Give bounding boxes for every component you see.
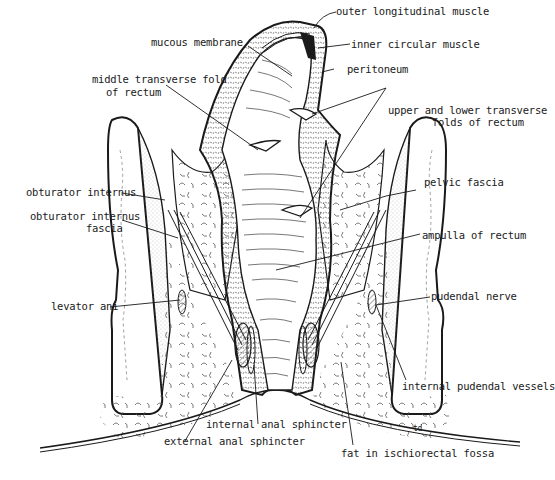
label-pudendal-nerve: pudendal nerve — [431, 290, 517, 303]
artist-initials: td — [413, 422, 422, 435]
label-internal-anal-sphincter: internal anal sphincter — [206, 418, 347, 431]
label-external-anal-sphincter: external anal sphincter — [164, 435, 305, 448]
label-middle-transverse-fold-line1: middle transverse fold — [92, 73, 227, 86]
right-ischium — [382, 117, 446, 414]
label-inner-circular-muscle: inner circular muscle — [351, 38, 480, 51]
label-outer-longitudinal-muscle: outer longitudinal muscle — [336, 5, 489, 18]
label-upper-lower-folds-line2: folds of rectum — [432, 116, 524, 129]
left-ischium — [108, 117, 170, 414]
label-pelvic-fascia: pelvic fascia — [424, 176, 504, 189]
label-obturator-internus-fascia-line2: fascia — [86, 222, 123, 235]
label-middle-transverse-fold-line2: of rectum — [106, 86, 161, 99]
label-ampulla-of-rectum: ampulla of rectum — [422, 229, 526, 242]
label-obturator-internus: obturator internus — [26, 186, 136, 199]
label-fat-in-ischiorectal-fossa: fat in ischiorectal fossa — [341, 447, 494, 460]
label-levator-ani: levator ani — [51, 300, 118, 313]
label-mucous-membrane: mucous membrane — [151, 36, 243, 49]
label-internal-pudendal-vessels: internal pudendal vessels — [402, 380, 555, 393]
label-peritoneum: peritoneum — [347, 63, 408, 76]
